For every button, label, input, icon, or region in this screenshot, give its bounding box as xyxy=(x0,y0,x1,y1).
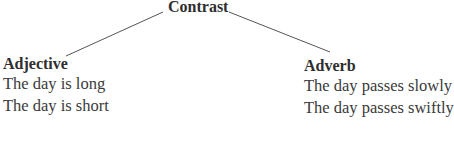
branch-heading: Adjective xyxy=(3,56,68,72)
connector-right xyxy=(229,12,330,52)
branch-example: The day passes slowly xyxy=(304,78,452,95)
root-node-label: Contrast xyxy=(168,0,228,15)
branch-heading: Adverb xyxy=(304,58,356,74)
branch-example: The day is short xyxy=(3,98,109,115)
branch-example: The day is long xyxy=(3,76,105,93)
branch-example: The day passes swiftly xyxy=(304,100,454,117)
connector-left xyxy=(66,12,163,56)
